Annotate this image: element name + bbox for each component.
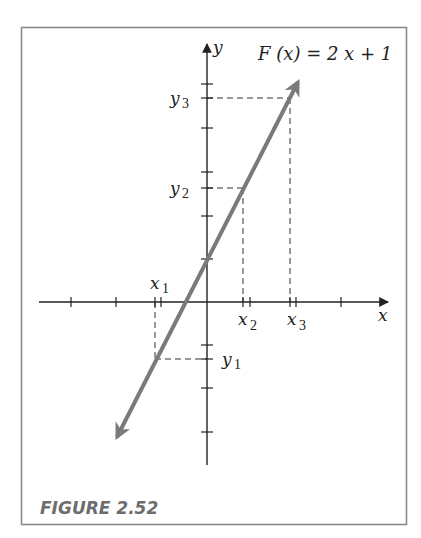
svg-text:3: 3 bbox=[299, 318, 306, 333]
svg-text:2: 2 bbox=[182, 186, 189, 201]
figure-canvas: y x F (x) = 2 x + 1 y 3 y 2 y 1 x 1 x 2 … bbox=[0, 0, 421, 538]
y-axis-label: y bbox=[212, 37, 223, 57]
svg-text:y: y bbox=[169, 178, 180, 198]
figure-caption: FIGURE 2.52 bbox=[40, 498, 158, 518]
figure-frame bbox=[22, 28, 407, 525]
svg-text:x: x bbox=[238, 309, 248, 329]
function-label: F (x) = 2 x + 1 bbox=[257, 43, 392, 64]
svg-text:3: 3 bbox=[182, 96, 189, 111]
svg-text:2: 2 bbox=[250, 318, 257, 333]
svg-text:1: 1 bbox=[234, 357, 241, 372]
svg-text:x: x bbox=[150, 273, 160, 293]
svg-text:1: 1 bbox=[162, 281, 169, 296]
svg-text:y: y bbox=[221, 349, 232, 369]
svg-text:x: x bbox=[287, 309, 297, 329]
svg-text:y: y bbox=[169, 88, 180, 108]
x-axis-label: x bbox=[378, 305, 388, 325]
